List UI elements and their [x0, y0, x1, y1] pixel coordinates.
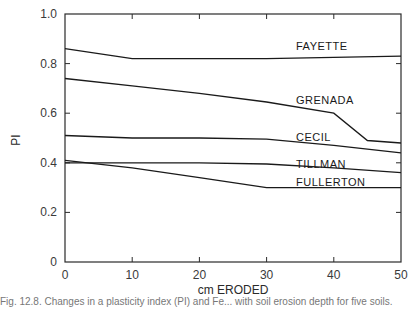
- x-tick-label: 0: [62, 268, 69, 282]
- y-axis-tick-labels: 00.20.40.60.81.0: [40, 7, 57, 269]
- figure-caption: Fig. 12.8. Changes in a plasticity index…: [0, 296, 416, 307]
- x-tick-label: 10: [126, 268, 140, 282]
- y-tick-label: 0.8: [40, 57, 57, 71]
- y-tick-label: 1.0: [40, 7, 57, 21]
- x-tick-label: 50: [394, 268, 408, 282]
- series-label-grenada: GRENADA: [296, 94, 354, 106]
- x-tick-label: 20: [193, 268, 207, 282]
- series-line-fayette: [65, 49, 401, 59]
- series-label-fullerton: FULLERTON: [296, 176, 366, 188]
- series-line-grenada: [65, 79, 401, 144]
- series-label-tillman: TILLMAN: [296, 158, 346, 170]
- y-tick-label: 0.4: [40, 156, 57, 170]
- y-tick-label: 0.2: [40, 205, 57, 219]
- x-tick-label: 40: [327, 268, 341, 282]
- y-axis-label: PI: [9, 134, 23, 145]
- line-chart: 00.20.40.60.81.0 01020304050 FAYETTEGREN…: [0, 0, 416, 309]
- series-label-fayette: FAYETTE: [296, 40, 348, 52]
- series-label-cecil: CECIL: [296, 131, 331, 143]
- y-tick-label: 0.6: [40, 106, 57, 120]
- x-axis-tick-labels: 01020304050: [62, 268, 408, 282]
- series-lines: [65, 49, 401, 188]
- y-tick-label: 0: [50, 255, 57, 269]
- series-line-cecil: [65, 136, 401, 153]
- x-tick-label: 30: [260, 268, 274, 282]
- series-labels: FAYETTEGRENADACECILTILLMANFULLERTON: [296, 40, 366, 188]
- series-line-tillman: [65, 163, 401, 173]
- x-axis-label: cm ERODED: [198, 283, 269, 297]
